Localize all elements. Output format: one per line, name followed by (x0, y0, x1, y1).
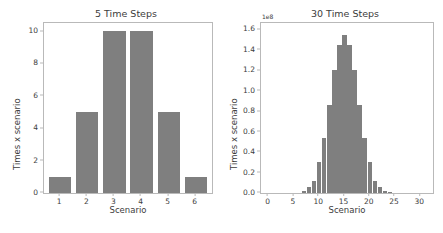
bar (76, 112, 98, 193)
y-tick-label: 10 (17, 26, 43, 35)
bar (368, 162, 372, 193)
y-axis-label-right: Times x scenario (229, 98, 239, 170)
bar (49, 177, 71, 193)
chart-title-left: 5 Time Steps (0, 8, 222, 19)
bar (185, 177, 207, 193)
bar (317, 162, 321, 193)
bar (332, 70, 336, 193)
bar (362, 138, 366, 193)
y-tick-label: 8 (17, 58, 43, 67)
bar-series-right (261, 23, 433, 193)
bar (352, 70, 356, 193)
y-axis-label-left: Times x scenario (12, 98, 22, 170)
bar (378, 187, 382, 193)
chart-panel-5-time-steps: 5 Time Steps 0246810 123456 Scenario Tim… (0, 0, 222, 233)
bar (307, 187, 311, 193)
bar (158, 112, 180, 193)
y-tick-label: 1.2 (234, 65, 260, 74)
bar-series-left (44, 23, 212, 193)
plot-area-right (260, 22, 434, 194)
plot-area-left (43, 22, 213, 194)
bar (347, 45, 351, 193)
bar (322, 138, 326, 193)
bar (312, 181, 316, 193)
y-tick-label: 1.0 (234, 85, 260, 94)
bar (302, 191, 306, 193)
bar (357, 105, 361, 193)
y-tick-label: 0 (17, 188, 43, 197)
bar (327, 105, 331, 193)
chart-panel-30-time-steps: 30 Time Steps 1e8 0.00.20.40.60.81.01.21… (221, 0, 443, 233)
bar (342, 35, 346, 193)
y-axis-offset-text-right: 1e8 (262, 13, 273, 20)
bar (383, 191, 387, 193)
x-axis-label-left: Scenario (43, 205, 213, 215)
bar (103, 31, 125, 193)
bar (373, 181, 377, 193)
figure-container: 5 Time Steps 0246810 123456 Scenario Tim… (0, 0, 443, 233)
x-axis-label-right: Scenario (260, 205, 434, 215)
y-tick-label: 1.6 (234, 24, 260, 33)
y-tick-label: 0.0 (234, 188, 260, 197)
chart-title-right: 30 Time Steps (221, 8, 443, 19)
y-tick-label: 1.4 (234, 44, 260, 53)
bar (337, 45, 341, 193)
bar (130, 31, 152, 193)
